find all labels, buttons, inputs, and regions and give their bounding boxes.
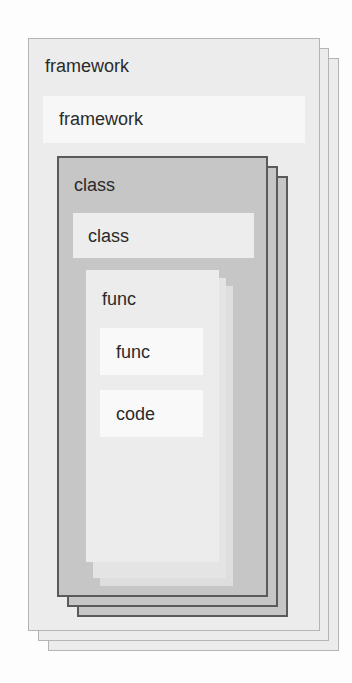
func-item-func: func bbox=[100, 328, 203, 375]
framework-inner-strip: framework bbox=[43, 96, 305, 143]
func-item-code: code bbox=[100, 390, 203, 437]
func-item-label: code bbox=[116, 405, 155, 423]
func-title: func bbox=[102, 290, 136, 308]
framework-inner-label: framework bbox=[59, 110, 143, 128]
class-title: class bbox=[74, 176, 115, 194]
func-item-label: func bbox=[116, 343, 150, 361]
class-inner-label: class bbox=[88, 227, 129, 245]
class-inner-strip: class bbox=[73, 213, 254, 258]
framework-title: framework bbox=[45, 57, 129, 75]
